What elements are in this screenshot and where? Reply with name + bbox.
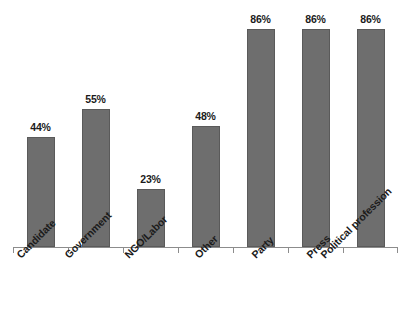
bar-group: 48% <box>178 8 233 247</box>
x-axis-tick <box>233 248 234 253</box>
x-axis-tick <box>178 248 179 253</box>
bar-group: 44% <box>13 8 68 247</box>
bar-value-label: 86% <box>305 13 325 25</box>
bar-rect[interactable] <box>247 29 275 247</box>
bar-rect[interactable] <box>302 29 330 247</box>
bar-group: 86% <box>233 8 288 247</box>
bar-group: 23% <box>123 8 178 247</box>
plot-area: 44% 55% 23% 48% 86% 86% 86% <box>13 8 398 247</box>
x-axis-tick <box>343 248 344 253</box>
bar-value-label: 23% <box>140 173 160 185</box>
bar-value-label: 44% <box>30 121 50 133</box>
bar-value-label: 86% <box>250 13 270 25</box>
bar-value-label: 55% <box>85 93 105 105</box>
bar-chart: 44% 55% 23% 48% 86% 86% 86% <box>0 0 410 334</box>
bar-group: 86% <box>288 8 343 247</box>
x-axis-tick <box>397 248 398 253</box>
bar-value-label: 86% <box>360 13 380 25</box>
x-axis-tick <box>288 248 289 253</box>
bar-value-label: 48% <box>195 110 215 122</box>
bar-group: 55% <box>68 8 123 247</box>
bar-rect[interactable] <box>192 126 220 247</box>
